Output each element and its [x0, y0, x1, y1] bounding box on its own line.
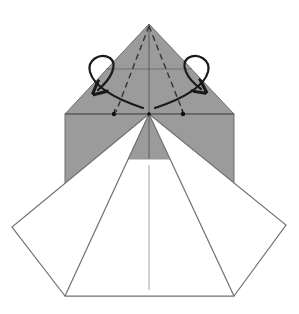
center-dot — [147, 112, 151, 116]
diagram-canvas — [0, 0, 299, 314]
origami-diagram: Origami step: gray paper with white pent… — [0, 0, 299, 314]
